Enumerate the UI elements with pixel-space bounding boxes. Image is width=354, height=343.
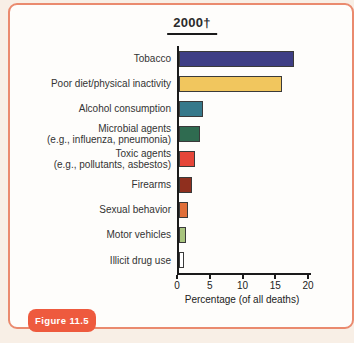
bar-label: Motor vehicles: [0, 229, 177, 240]
bar: [179, 177, 192, 193]
bar-label: Illicit drug use: [0, 255, 177, 266]
bar-label: Poor diet/physical inactivity: [0, 78, 177, 89]
bar-label: Microbial agents (e.g., influenza, pneum…: [0, 123, 177, 145]
x-tick: [176, 275, 178, 279]
bar-cell: [177, 96, 348, 121]
x-axis-title: Percentage (of all deaths): [185, 294, 300, 305]
bar-cell: [177, 172, 348, 197]
bar-cell: [177, 71, 348, 96]
bar-cell: [177, 122, 348, 147]
bar-chart: TobaccoPoor diet/physical inactivityAlco…: [0, 46, 348, 307]
x-tick-label: 5: [207, 280, 213, 291]
x-tick: [209, 275, 211, 279]
bar-label: Firearms: [0, 179, 177, 190]
bar: [179, 76, 282, 92]
bar-label: Tobacco: [0, 53, 177, 64]
x-tick: [274, 275, 276, 279]
x-tick-label: 15: [270, 280, 281, 291]
bar: [179, 252, 184, 268]
bar-row: Poor diet/physical inactivity: [0, 71, 348, 96]
bar-row: Firearms: [0, 172, 348, 197]
x-tick-label: 20: [302, 280, 313, 291]
bar-row: Microbial agents (e.g., influenza, pneum…: [0, 122, 348, 147]
x-tick-label: 0: [174, 280, 180, 291]
bar-label: Toxic agents (e.g., pollutants, asbestos…: [0, 148, 177, 170]
bar-row: Illicit drug use: [0, 248, 348, 273]
bar-cell: [177, 197, 348, 222]
bar-row: Motor vehicles: [0, 222, 348, 247]
chart-title: 2000†: [167, 15, 217, 35]
bar-row: Alcohol consumption: [0, 96, 348, 121]
chart-title-text: 2000†: [173, 15, 211, 30]
x-tick: [242, 275, 244, 279]
x-tick-label: 10: [237, 280, 248, 291]
bar-label: Sexual behavior: [0, 204, 177, 215]
bar: [179, 51, 294, 67]
x-tick: [307, 275, 309, 279]
figure-badge-label: Figure 11.5: [35, 315, 89, 326]
bar-cell: [177, 222, 348, 247]
bar: [179, 126, 200, 142]
bar-row: Tobacco: [0, 46, 348, 71]
x-axis-line: [177, 273, 311, 275]
bar: [179, 202, 188, 218]
bar-cell: [177, 46, 348, 71]
bar-cell: [177, 147, 348, 172]
chart-rows: TobaccoPoor diet/physical inactivityAlco…: [0, 46, 348, 273]
bar: [179, 151, 195, 167]
bar: [179, 101, 203, 117]
x-axis: 05101520 Percentage (of all deaths): [177, 273, 311, 307]
bar-cell: [177, 248, 348, 273]
bar-row: Toxic agents (e.g., pollutants, asbestos…: [0, 147, 348, 172]
bar-row: Sexual behavior: [0, 197, 348, 222]
bar: [179, 227, 186, 243]
bar-label: Alcohol consumption: [0, 103, 177, 114]
figure-badge: Figure 11.5: [28, 309, 96, 332]
